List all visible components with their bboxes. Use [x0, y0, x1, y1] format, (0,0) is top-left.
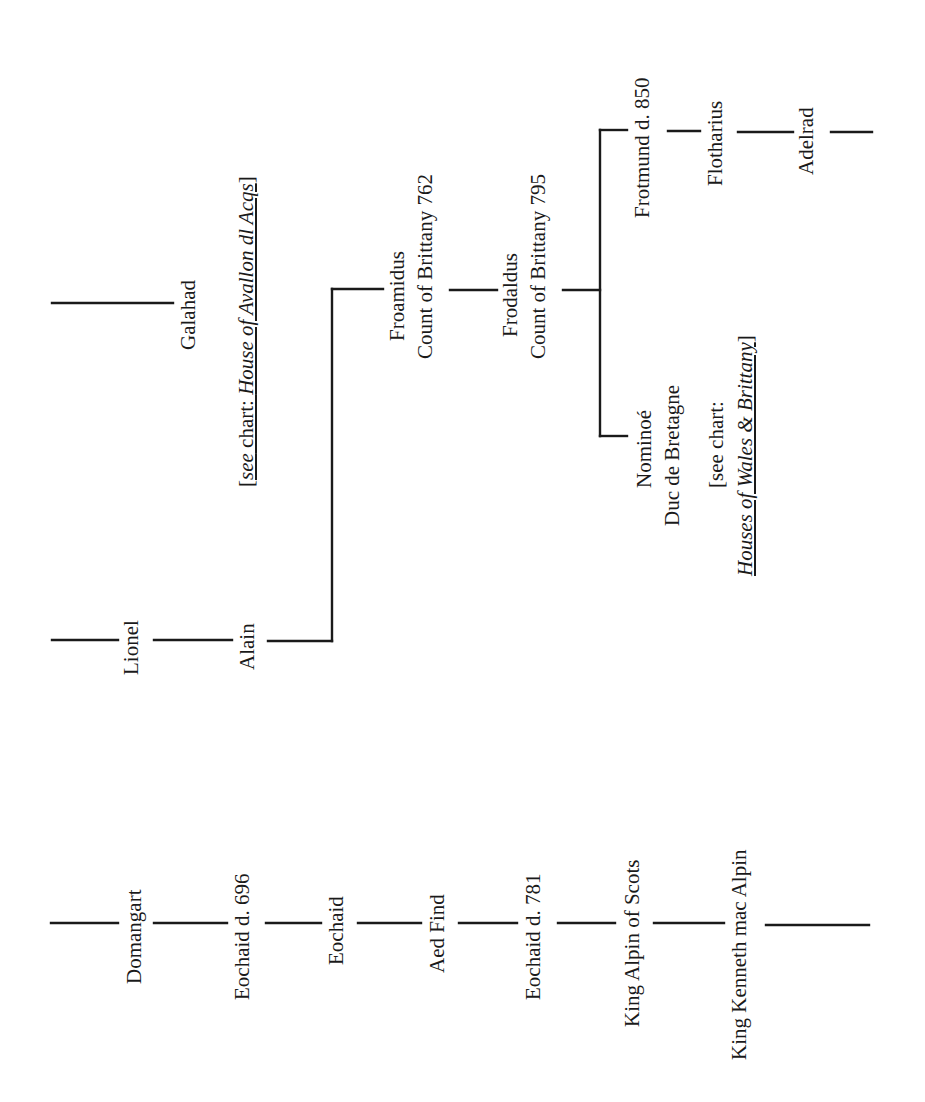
person-king-kenneth: King Kenneth mac Alpin: [729, 849, 750, 1060]
person-adelrad: Adelrad: [796, 107, 817, 175]
person-eochaid-781: Eochaid d. 781: [523, 873, 544, 1000]
person-froamidus: Froamidus: [387, 251, 408, 341]
person-froamidus-title: Count of Brittany 762: [415, 174, 436, 359]
person-flotharius: Flotharius: [705, 101, 726, 186]
ref-chart-text: chart:: [234, 395, 258, 453]
ref-close-bracket: ]: [733, 335, 757, 342]
nominoe-chart-reference-line1: [see chart:: [706, 401, 727, 488]
person-nominoe: Nominoé: [634, 410, 655, 488]
nominoe-chart-reference-line2[interactable]: Houses of Wales & Brittany]: [735, 335, 756, 576]
person-king-alpin: King Alpin of Scots: [622, 860, 643, 1027]
galahad-chart-reference[interactable]: [see chart: House of Avallon dl Acqs]: [236, 176, 257, 487]
person-frotmund: Frotmund d. 850: [632, 77, 653, 218]
person-lionel: Lionel: [121, 620, 142, 675]
person-aed-find: Aed Find: [427, 894, 448, 973]
ref-open-bracket: [: [234, 480, 258, 487]
person-nominoe-title: Duc de Bretagne: [662, 385, 683, 526]
ref-see-chart: [see chart:: [704, 401, 728, 488]
ref-see: see: [234, 453, 258, 480]
ref-chart-title-wales-brittany[interactable]: Houses of Wales & Brittany: [733, 342, 757, 576]
person-domangart: Domangart: [124, 890, 145, 984]
person-eochaid-696: Eochaid d. 696: [232, 873, 253, 1000]
person-frodaldus: Frodaldus: [500, 253, 521, 337]
person-eochaid: Eochaid: [326, 896, 347, 965]
ref-close-bracket: ]: [234, 176, 258, 183]
person-frodaldus-title: Count of Brittany 795: [528, 174, 549, 359]
person-alain: Alain: [237, 623, 258, 670]
person-galahad: Galahad: [178, 280, 199, 350]
ref-chart-title-avallon[interactable]: House of Avallon dl Acqs: [234, 183, 258, 395]
